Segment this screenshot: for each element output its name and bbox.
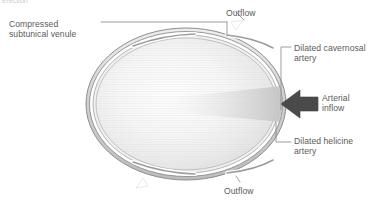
label-dilated-helicine-artery: Dilated helicine artery <box>294 136 353 157</box>
diagram-canvas: Erection <box>0 0 379 208</box>
label-arterial-inflow: Arterial inflow <box>322 93 350 114</box>
arrow-left-icon <box>281 90 318 118</box>
label-dilated-cavernosal-artery: Dilated cavernosal artery <box>294 43 366 64</box>
label-compressed-subtunical-venule: Compressed subtunical venule <box>9 19 76 40</box>
label-outflow-top: Outflow <box>226 8 255 18</box>
label-outflow-bottom: Outflow <box>224 186 253 196</box>
